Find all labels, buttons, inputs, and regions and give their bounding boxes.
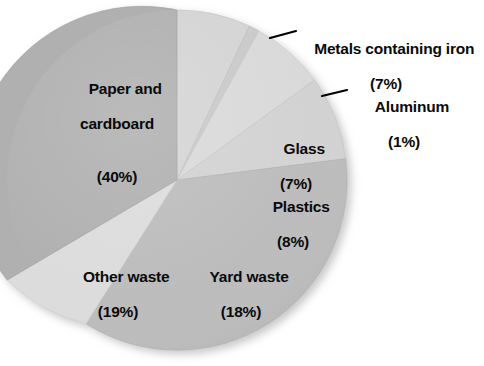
- pie-chart-figure: Paper and cardboard (40%) Other waste (1…: [0, 0, 484, 366]
- slice-label-paper-and-cardboard-line1: Paper and: [89, 80, 162, 97]
- slice-label-aluminum-line1: Aluminum: [375, 98, 449, 115]
- slice-value-aluminum: (1%): [340, 133, 468, 151]
- slice-label-other-waste: Other waste (19%): [48, 250, 188, 356]
- slice-value-other-waste: (19%): [48, 303, 188, 321]
- slice-label-glass: Glass (7%): [248, 122, 344, 228]
- slice-value-plastics: (8%): [238, 233, 348, 251]
- slice-label-paper-and-cardboard: Paper and cardboard (40%): [42, 62, 192, 221]
- slice-label-metals-containing-iron-line1: Metals containing iron: [314, 40, 474, 57]
- slice-label-other-waste-line1: Other waste: [83, 268, 170, 285]
- slice-value-glass: (7%): [248, 175, 344, 193]
- slice-value-paper-and-cardboard: (40%): [42, 168, 192, 186]
- slice-label-paper-and-cardboard-line2: cardboard: [42, 115, 192, 133]
- slice-label-aluminum: Aluminum (1%): [340, 80, 468, 186]
- slice-label-glass-line1: Glass: [284, 140, 325, 157]
- slice-value-yard-waste: (18%): [176, 303, 306, 321]
